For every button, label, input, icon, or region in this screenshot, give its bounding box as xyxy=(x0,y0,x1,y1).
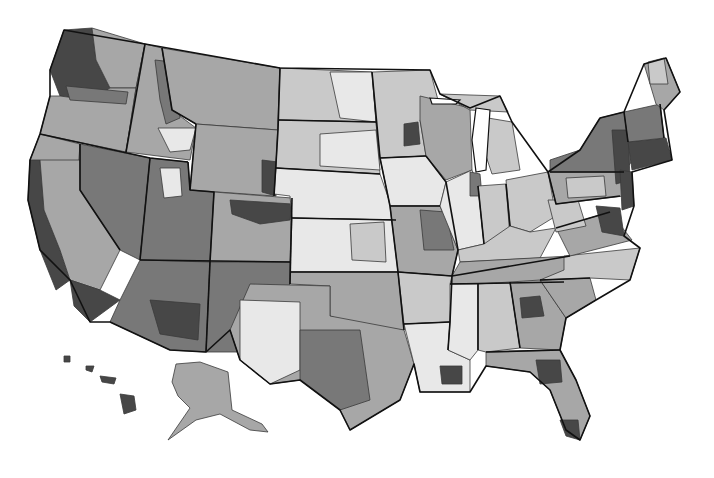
us-choropleth-map xyxy=(0,0,714,478)
region-kansas-east-light xyxy=(350,222,386,262)
region-arkansas xyxy=(398,272,452,324)
region-hawaii-kauai xyxy=(64,356,70,362)
region-minnesota-twin-cities-dark xyxy=(404,122,420,146)
region-mississippi xyxy=(448,284,478,360)
region-georgia-atlanta-dark xyxy=(520,296,544,318)
region-south-dakota-east-light xyxy=(320,130,380,170)
region-louisiana-new-orleans-dark xyxy=(440,366,462,384)
region-utah-slc-light xyxy=(160,168,182,198)
region-pennsylvania-central-light xyxy=(566,176,606,198)
